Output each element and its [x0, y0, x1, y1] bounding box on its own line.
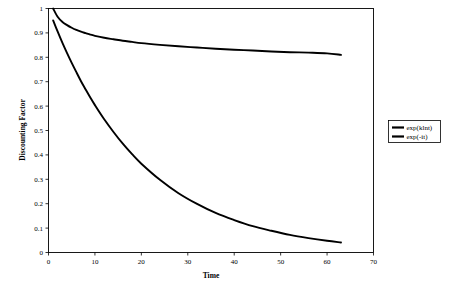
x-tick-label: 70: [370, 258, 378, 266]
y-tick-label: 0.6: [34, 103, 43, 111]
chart-legend[interactable]: exp(klnt) exp(-it): [389, 121, 441, 143]
y-tick-label: 0.9: [34, 29, 43, 37]
series-line-exp-it: [53, 20, 341, 242]
x-axis-title: Time: [203, 271, 220, 280]
y-tick-label: 0.8: [34, 54, 43, 62]
y-axis: 00.10.20.30.40.50.60.70.80.91: [34, 5, 48, 257]
x-tick-label: 30: [184, 258, 192, 266]
y-tick-label: 0.3: [34, 176, 43, 184]
x-tick-label: 10: [91, 258, 99, 266]
series-group: [53, 9, 341, 243]
chart-figure: 010203040506070 00.10.20.30.40.50.60.70.…: [0, 0, 466, 293]
x-tick-label: 50: [277, 258, 285, 266]
x-tick-label: 0: [47, 258, 51, 266]
x-tick-label: 40: [231, 258, 239, 266]
y-axis-title: Discounting Factor: [18, 99, 27, 161]
x-tick-label: 20: [138, 258, 146, 266]
y-tick-label: 0.4: [34, 151, 43, 159]
y-tick-label: 0: [40, 249, 44, 257]
series-line-exp-klnt: [53, 9, 341, 55]
y-tick-label: 0.7: [34, 78, 43, 86]
plot-frame: [49, 9, 374, 253]
y-tick-label: 0.5: [34, 127, 43, 135]
x-tick-label: 60: [324, 258, 332, 266]
legend-label-exp-it[interactable]: exp(-it): [407, 133, 429, 141]
legend-label-exp-klnt[interactable]: exp(klnt): [407, 124, 433, 132]
y-tick-label: 1: [40, 5, 44, 13]
y-tick-label: 0.2: [34, 200, 43, 208]
x-axis: 010203040506070: [47, 253, 378, 266]
discounting-factor-chart: 010203040506070 00.10.20.30.40.50.60.70.…: [0, 0, 466, 293]
y-tick-label: 0.1: [34, 225, 43, 233]
